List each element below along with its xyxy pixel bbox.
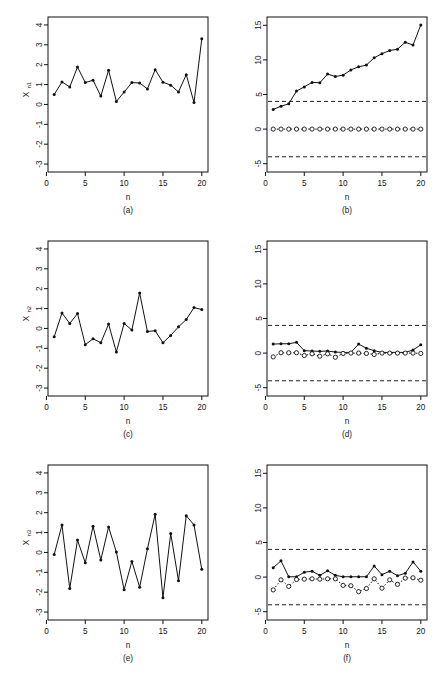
svg-text:3: 3 xyxy=(36,266,45,271)
svg-text:5: 5 xyxy=(302,403,307,412)
svg-text:10: 10 xyxy=(339,403,349,412)
svg-text:(c): (c) xyxy=(123,430,133,439)
svg-text:X: X xyxy=(22,539,31,545)
chart-panel-b: 05101520-5051015n(b) xyxy=(219,0,438,224)
svg-text:10: 10 xyxy=(255,503,264,513)
svg-text:5: 5 xyxy=(83,179,88,188)
svg-text:n1: n1 xyxy=(26,81,32,88)
svg-text:15: 15 xyxy=(377,403,387,412)
svg-text:-5: -5 xyxy=(255,608,264,616)
chart-panel-e: 05101520-3-2-101234n(e)Xn3 xyxy=(0,448,219,672)
svg-text:15: 15 xyxy=(158,403,168,412)
svg-text:n: n xyxy=(126,641,131,650)
svg-text:5: 5 xyxy=(83,627,88,636)
svg-text:-5: -5 xyxy=(255,160,264,168)
svg-text:20: 20 xyxy=(416,403,426,412)
svg-text:-5: -5 xyxy=(255,384,264,392)
svg-text:20: 20 xyxy=(416,179,426,188)
svg-text:15: 15 xyxy=(158,627,168,636)
svg-text:(b): (b) xyxy=(342,206,352,215)
svg-text:n: n xyxy=(126,417,131,426)
svg-text:0: 0 xyxy=(44,627,49,636)
svg-text:1: 1 xyxy=(36,530,45,535)
svg-text:3: 3 xyxy=(36,42,45,47)
svg-text:-1: -1 xyxy=(36,568,45,576)
svg-text:5: 5 xyxy=(302,179,307,188)
svg-text:-2: -2 xyxy=(36,588,45,596)
svg-text:5: 5 xyxy=(83,403,88,412)
svg-text:0: 0 xyxy=(255,574,264,579)
svg-text:10: 10 xyxy=(339,627,349,636)
svg-text:2: 2 xyxy=(36,62,45,67)
svg-text:10: 10 xyxy=(339,179,349,188)
svg-text:10: 10 xyxy=(120,179,130,188)
svg-text:-3: -3 xyxy=(36,384,45,392)
svg-text:5: 5 xyxy=(302,627,307,636)
svg-text:5: 5 xyxy=(255,540,264,545)
svg-text:5: 5 xyxy=(255,92,264,97)
figure-container: 05101520-3-2-101234n(a)Xn1 05101520-5051… xyxy=(0,0,439,687)
svg-text:0: 0 xyxy=(263,179,268,188)
svg-text:15: 15 xyxy=(255,468,264,478)
svg-text:n3: n3 xyxy=(26,529,32,536)
svg-text:20: 20 xyxy=(197,627,207,636)
svg-text:0: 0 xyxy=(263,403,268,412)
svg-text:n: n xyxy=(345,193,350,202)
svg-text:10: 10 xyxy=(120,627,130,636)
svg-text:(d): (d) xyxy=(342,430,352,439)
svg-text:15: 15 xyxy=(377,627,387,636)
svg-text:0: 0 xyxy=(255,126,264,131)
svg-text:3: 3 xyxy=(36,490,45,495)
svg-text:0: 0 xyxy=(36,550,45,555)
svg-text:-3: -3 xyxy=(36,608,45,616)
svg-text:-3: -3 xyxy=(36,160,45,168)
svg-text:n: n xyxy=(345,417,350,426)
svg-text:2: 2 xyxy=(36,510,45,515)
chart-panel-f: 05101520-5051015n(f) xyxy=(219,448,438,672)
svg-text:10: 10 xyxy=(255,279,264,289)
svg-text:0: 0 xyxy=(255,350,264,355)
svg-text:1: 1 xyxy=(36,82,45,87)
svg-text:4: 4 xyxy=(36,470,45,475)
figure-caption xyxy=(14,672,426,686)
svg-text:20: 20 xyxy=(197,403,207,412)
svg-text:4: 4 xyxy=(36,246,45,251)
svg-text:10: 10 xyxy=(255,55,264,65)
svg-text:n: n xyxy=(126,193,131,202)
svg-text:X: X xyxy=(22,315,31,321)
svg-text:10: 10 xyxy=(120,403,130,412)
chart-panel-d: 05101520-5051015n(d) xyxy=(219,224,438,448)
svg-text:15: 15 xyxy=(255,20,264,30)
svg-text:0: 0 xyxy=(263,627,268,636)
svg-text:-2: -2 xyxy=(36,140,45,148)
svg-text:(f): (f) xyxy=(343,654,351,663)
svg-text:2: 2 xyxy=(36,286,45,291)
svg-text:(a): (a) xyxy=(123,206,133,215)
svg-text:0: 0 xyxy=(44,179,49,188)
svg-text:20: 20 xyxy=(416,627,426,636)
chart-panel-c: 05101520-3-2-101234n(c)Xn2 xyxy=(0,224,219,448)
svg-text:0: 0 xyxy=(36,326,45,331)
svg-text:-2: -2 xyxy=(36,364,45,372)
svg-text:-1: -1 xyxy=(36,120,45,128)
svg-text:15: 15 xyxy=(255,244,264,254)
svg-text:n2: n2 xyxy=(26,305,32,312)
svg-text:-1: -1 xyxy=(36,344,45,352)
svg-text:0: 0 xyxy=(36,102,45,107)
svg-text:0: 0 xyxy=(44,403,49,412)
svg-text:4: 4 xyxy=(36,22,45,27)
svg-text:n: n xyxy=(345,641,350,650)
svg-text:(e): (e) xyxy=(123,654,133,663)
svg-text:15: 15 xyxy=(377,179,387,188)
chart-panel-a: 05101520-3-2-101234n(a)Xn1 xyxy=(0,0,219,224)
svg-text:20: 20 xyxy=(197,179,207,188)
svg-text:1: 1 xyxy=(36,306,45,311)
svg-text:15: 15 xyxy=(158,179,168,188)
svg-text:5: 5 xyxy=(255,316,264,321)
svg-text:X: X xyxy=(22,91,31,97)
